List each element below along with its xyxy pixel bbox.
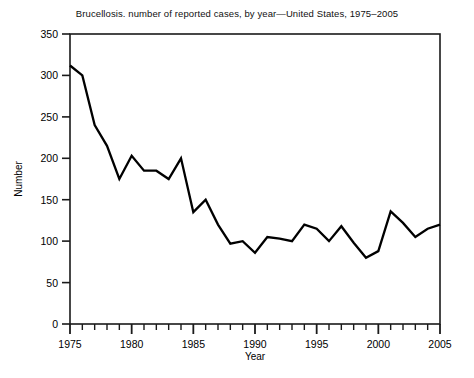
x-tick-label-1990: 1990 bbox=[243, 338, 267, 350]
data-series-line bbox=[70, 65, 440, 257]
y-tick-label-350: 350 bbox=[40, 28, 58, 40]
y-tick-label-200: 200 bbox=[40, 152, 58, 164]
x-axis-tick-labels: 1975198019851990199520002005 bbox=[58, 338, 452, 350]
chart-plot-area: 350 300 250 200 150 100 50 0 Number 1975… bbox=[0, 0, 474, 378]
x-axis-major-ticks bbox=[70, 324, 440, 334]
y-tick-label-150: 150 bbox=[40, 194, 58, 206]
x-tick-label-1995: 1995 bbox=[305, 338, 329, 350]
y-tick-label-300: 300 bbox=[40, 69, 58, 81]
y-tick-label-0: 0 bbox=[52, 318, 58, 330]
y-tick-label-100: 100 bbox=[40, 235, 58, 247]
x-tick-label-2000: 2000 bbox=[367, 338, 391, 350]
y-tick-label-250: 250 bbox=[40, 111, 58, 123]
x-tick-label-2005: 2005 bbox=[428, 338, 452, 350]
plot-border bbox=[70, 34, 440, 324]
x-tick-label-1985: 1985 bbox=[182, 338, 206, 350]
x-tick-label-1980: 1980 bbox=[120, 338, 144, 350]
x-axis-title: Year bbox=[245, 351, 266, 362]
y-axis-ticks bbox=[62, 34, 70, 324]
plot-frame bbox=[70, 34, 440, 324]
y-axis-tick-labels: 350 300 250 200 150 100 50 0 bbox=[40, 28, 58, 330]
y-tick-label-50: 50 bbox=[46, 277, 58, 289]
chart-figure: Brucellosis. number of reported cases, b… bbox=[0, 0, 474, 378]
y-axis-title: Number bbox=[13, 161, 24, 197]
x-tick-label-1975: 1975 bbox=[58, 338, 82, 350]
